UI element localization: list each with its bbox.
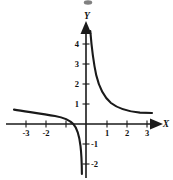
y-tick-label-neg1: -1 bbox=[91, 139, 98, 149]
y-axis-label: Y bbox=[84, 11, 91, 21]
x-axis bbox=[6, 119, 163, 130]
x-axis-label: X bbox=[162, 119, 170, 129]
x-tick-label-3: 3 bbox=[145, 128, 149, 138]
x-axis-arrow-icon bbox=[150, 119, 163, 130]
x-tick-label-neg3: -3 bbox=[22, 128, 29, 138]
y-tick-label-1: 1 bbox=[75, 99, 79, 109]
y-tick-label-3: 3 bbox=[75, 59, 79, 69]
function-graph-figure: -3 -2 1 2 3 4 3 2 1 -1 -2 X Y bbox=[0, 0, 173, 180]
y-tick-label-2: 2 bbox=[75, 79, 79, 89]
curve-right-branch bbox=[90, 31, 152, 113]
y-tick-label-4: 4 bbox=[75, 39, 80, 49]
x-tick-label-2: 2 bbox=[125, 128, 129, 138]
top-edge-artifact bbox=[84, 0, 92, 4]
x-tick-label-1: 1 bbox=[105, 128, 109, 138]
curve-left-branch bbox=[14, 110, 82, 174]
x-tick-label-neg2: -2 bbox=[42, 128, 49, 138]
y-tick-label-neg2: -2 bbox=[91, 159, 98, 169]
plot-canvas: -3 -2 1 2 3 4 3 2 1 -1 -2 X Y bbox=[0, 0, 173, 180]
